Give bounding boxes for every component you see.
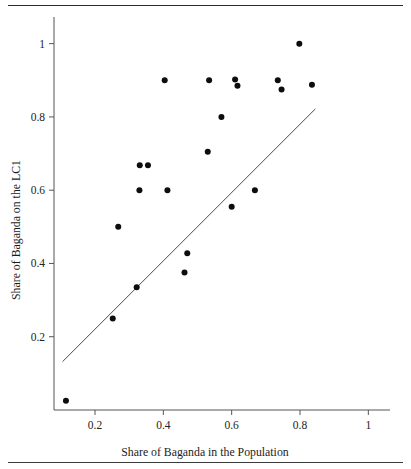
- y-tick-label: 0.4: [31, 257, 46, 269]
- x-tick-label: 0.6: [224, 419, 239, 431]
- fit-line-group: [63, 109, 316, 362]
- data-point: [184, 250, 190, 256]
- data-point: [182, 270, 188, 276]
- data-points-group: [63, 41, 315, 404]
- data-point: [145, 162, 151, 168]
- scatter-plot: 0.20.40.60.81 0.20.40.60.81 Share of Bag…: [0, 0, 411, 469]
- data-point: [296, 41, 302, 47]
- data-point: [234, 83, 240, 89]
- x-axis-ticks: 0.20.40.60.81: [88, 410, 372, 431]
- figure-container: 0.20.40.60.81 0.20.40.60.81 Share of Bag…: [0, 0, 411, 469]
- y-tick-label: 0.8: [31, 111, 46, 123]
- data-point: [137, 162, 143, 168]
- data-point: [115, 224, 121, 230]
- regression-line: [63, 109, 316, 362]
- y-axis-ticks: 0.20.40.60.81: [31, 38, 54, 343]
- data-point: [205, 149, 211, 155]
- x-tick-label: 0.2: [88, 419, 103, 431]
- data-point: [206, 77, 212, 83]
- x-axis-title: Share of Baganda in the Population: [121, 445, 289, 459]
- x-tick-label: 1: [365, 419, 371, 431]
- data-point: [134, 284, 140, 290]
- x-tick-label: 0.8: [293, 419, 308, 431]
- data-point: [309, 82, 315, 88]
- data-point: [279, 86, 285, 92]
- data-point: [164, 187, 170, 193]
- y-tick-label: 1: [39, 38, 45, 50]
- data-point: [232, 77, 238, 83]
- y-axis-title: Share of Baganda on the LC1: [9, 160, 23, 300]
- data-point: [136, 187, 142, 193]
- data-point: [275, 77, 281, 83]
- y-tick-label: 0.6: [31, 184, 46, 196]
- data-point: [252, 187, 258, 193]
- data-point: [63, 398, 69, 404]
- axes-group: [54, 17, 390, 410]
- y-tick-label: 0.2: [31, 331, 46, 343]
- data-point: [162, 77, 168, 83]
- data-point: [218, 114, 224, 120]
- data-point: [110, 315, 116, 321]
- x-tick-label: 0.4: [156, 419, 171, 431]
- data-point: [229, 204, 235, 210]
